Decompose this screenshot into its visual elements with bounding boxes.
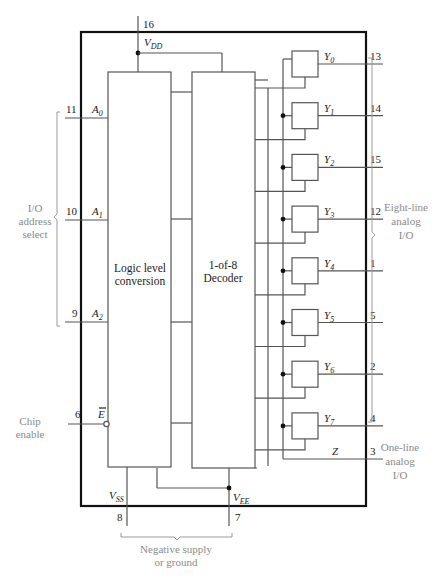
vee-junction	[227, 486, 232, 491]
negative-supply-brace	[121, 533, 232, 540]
input-a2-label: A2	[91, 307, 103, 322]
junction-dot	[281, 424, 286, 429]
output-label-y3: Y3	[324, 205, 334, 220]
switch-5	[292, 310, 318, 336]
input-a1-label: A1	[91, 205, 103, 220]
control-wire	[255, 77, 305, 88]
address-note-1: I/O	[28, 202, 43, 214]
junction-dot	[281, 113, 286, 118]
enable-pin: 6	[75, 408, 81, 420]
vss-label: VSS	[109, 489, 124, 504]
decoder-block-label-1: 1-of-8	[209, 259, 238, 271]
control-wire	[255, 336, 305, 347]
input-a2-pin: 9	[72, 307, 78, 319]
enable-label: E	[97, 408, 105, 420]
vss-pin: 8	[117, 511, 123, 523]
chip-enable-note-1: Chip	[19, 415, 41, 427]
control-wire	[255, 387, 305, 398]
inversion-bubble	[104, 421, 109, 426]
output-pin-y4: 1	[370, 257, 376, 269]
address-note-2: address	[19, 215, 52, 227]
output-label-y5: Y5	[324, 309, 334, 324]
logic-block-label-2: conversion	[115, 275, 166, 287]
control-wire	[255, 284, 305, 295]
output-pin-y6: 2	[370, 360, 376, 372]
output-label-y2: Y2	[324, 153, 334, 168]
one-line-note-1: One-line	[381, 441, 420, 453]
switch-0	[292, 51, 318, 77]
switch-2	[292, 154, 318, 180]
junction-dot	[281, 320, 286, 325]
negative-supply-note-1: Negative supply	[140, 543, 212, 555]
control-wire	[255, 180, 305, 191]
output-label-y4: Y4	[324, 257, 334, 272]
output-label-y6: Y6	[324, 360, 334, 375]
switch-6	[292, 361, 318, 387]
one-line-note-3: I/O	[393, 469, 408, 481]
z-pin: 3	[370, 445, 376, 457]
vee-label: VEE	[233, 491, 250, 506]
eight-line-note-3: I/O	[399, 229, 414, 241]
control-wire	[255, 129, 305, 140]
switch-1	[292, 103, 318, 129]
switch-3	[292, 206, 318, 232]
switch-7	[292, 413, 318, 439]
vdd-pin-number: 16	[143, 18, 155, 30]
analog-switches: Y013Y114Y215Y312Y41Y55Y62Y74	[255, 50, 383, 466]
input-a0-pin: 11	[66, 103, 77, 115]
input-a0-label: A0	[91, 103, 103, 118]
input-a1: 10 A1	[65, 205, 108, 220]
chip-enable-note-2: enable	[16, 428, 45, 440]
common-z-line: Z 3	[283, 445, 383, 459]
output-label-y7: Y7	[324, 412, 335, 427]
address-brace	[54, 112, 60, 326]
logic-block-label-1: Logic level	[114, 262, 166, 275]
junction-dot	[281, 372, 286, 377]
vee-pin: 7	[235, 511, 241, 523]
input-enable: 6 E	[68, 408, 109, 427]
one-line-note-2: analog	[385, 455, 415, 467]
decoder-block-label-2: Decoder	[204, 272, 243, 284]
junction-dot	[281, 217, 286, 222]
control-wire	[255, 439, 305, 450]
output-label-y0: Y0	[324, 50, 334, 65]
eight-line-note-1: Eight-line	[384, 201, 428, 213]
input-a1-pin: 10	[66, 205, 78, 217]
input-a0: 11 A0	[65, 103, 108, 118]
output-label-y1: Y1	[324, 102, 334, 117]
control-wire	[255, 232, 305, 243]
output-pin-y5: 5	[370, 309, 376, 321]
z-label: Z	[332, 445, 339, 457]
input-a2: 9 A2	[65, 307, 108, 322]
address-note-3: select	[22, 228, 47, 240]
switch-4	[292, 258, 318, 284]
junction-dot	[281, 268, 286, 273]
vdd-label: VDD	[144, 36, 163, 51]
junction-dot	[281, 165, 286, 170]
negative-supply-note-2: or ground	[154, 556, 198, 568]
eight-line-note-2: analog	[391, 215, 421, 227]
multiplexer-diagram: 16 VDD Logic level conversion 1-of-8 Dec…	[0, 0, 433, 581]
